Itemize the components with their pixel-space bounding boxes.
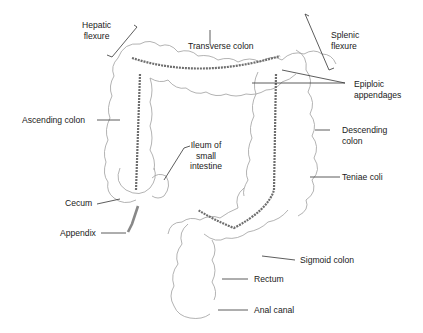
label-line: Ileum of [190,140,222,151]
label-appendix: Appendix [60,228,96,239]
label-ileum: Ileum of small intestine [190,140,222,172]
label-line: Descending [342,125,387,136]
label-line: colon [342,136,387,147]
label-line: Hepatic [82,20,111,31]
label-line: appendages [354,90,401,101]
label-line: intestine [190,161,222,172]
label-sigmoid-colon: Sigmoid colon [300,255,354,266]
label-line: Splenic [331,30,359,41]
label-transverse-colon: Transverse colon [188,41,254,52]
label-cecum: Cecum [65,198,92,209]
label-line: flexure [331,41,359,52]
label-ascending-colon: Ascending colon [22,115,85,126]
label-descending-colon: Descending colon [342,125,387,146]
label-hepatic-flexure: Hepatic flexure [82,20,111,41]
label-line: flexure [82,31,111,42]
appendix-shape [128,206,138,232]
label-teniae-coli: Teniae coli [342,172,383,183]
label-line: small [190,151,222,162]
label-epiploic-appendages: Epiploic appendages [354,79,401,100]
label-splenic-flexure: Splenic flexure [331,30,359,51]
label-anal-canal: Anal canal [254,305,294,316]
label-rectum: Rectum [254,274,284,285]
label-line: Epiploic [354,79,401,90]
